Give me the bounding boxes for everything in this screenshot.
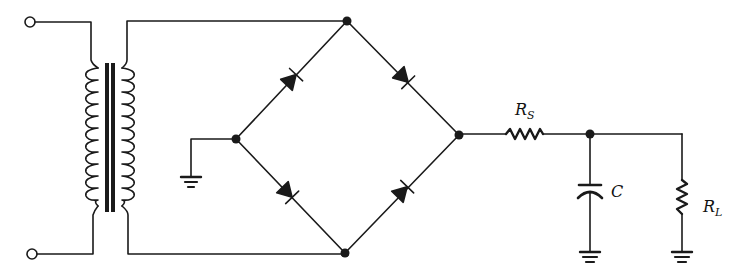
input-terminal-bottom (27, 249, 37, 259)
node-dot (341, 249, 350, 258)
ground-icon (580, 252, 600, 262)
node-dot (455, 131, 464, 140)
primary-coil (86, 68, 98, 206)
resistor-rs-icon (506, 129, 543, 139)
secondary-wire-bottom (122, 206, 345, 254)
input-terminal-top (25, 17, 35, 27)
secondary-wire-top (122, 21, 347, 68)
rl-label: RL (702, 197, 722, 219)
diode-icon (391, 180, 414, 203)
ground-icon (181, 177, 201, 187)
ground-wire-left (191, 139, 236, 176)
transformer-core-right (111, 63, 115, 212)
capacitor-label: C (611, 182, 623, 201)
transformer-core-left (105, 63, 109, 212)
node-dot (343, 17, 352, 26)
primary-wire-bottom (37, 206, 98, 254)
bridge-rectifier-circuit: RS C RL (0, 0, 755, 280)
resistor-rl-icon (677, 180, 687, 214)
rs-label: RS (514, 100, 535, 122)
primary-wire-top (35, 22, 98, 68)
secondary-coil (122, 68, 134, 206)
ground-icon (672, 252, 692, 262)
